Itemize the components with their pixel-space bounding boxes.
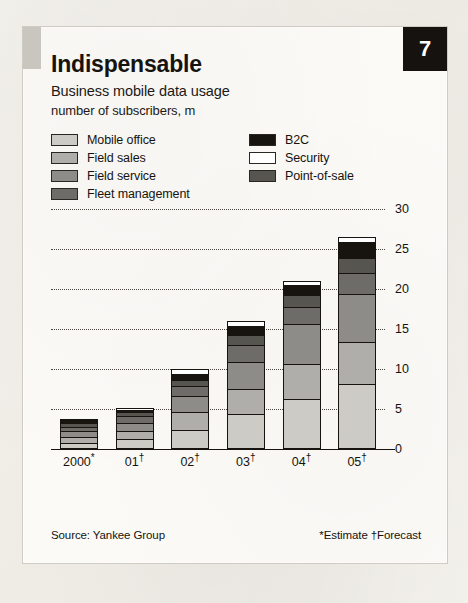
legend-swatch-b2c	[249, 134, 276, 146]
y-axis-tick-label: 30	[395, 202, 409, 216]
bar-segment-mobile-office	[60, 443, 98, 449]
legend-item-point-of-sale: Point-of-sale	[249, 167, 354, 185]
legend-item-fleet-management: Fleet management	[51, 185, 190, 203]
y-axis-tick-label: 20	[395, 282, 409, 296]
legend-item-b2c: B2C	[249, 131, 354, 149]
source-note: Source: Yankee Group	[51, 529, 165, 541]
bar-segment-field-sales	[283, 364, 321, 399]
legend-column-left: Mobile office Field sales Field service …	[51, 131, 190, 203]
legend-swatch-field-sales	[51, 152, 78, 164]
legend-item-field-service: Field service	[51, 167, 190, 185]
legend-swatch-fleet-management	[51, 188, 78, 200]
bar-01	[116, 408, 154, 449]
y-axis-tick-label: 15	[395, 322, 409, 336]
bar-02	[171, 369, 209, 449]
bar-segment-mobile-office	[227, 414, 265, 449]
bar-segment-field-service	[227, 362, 265, 389]
bar-segment-point-of-sale	[283, 295, 321, 306]
x-axis-tick-label: 02†	[159, 455, 221, 469]
gridline-10	[51, 369, 385, 370]
footnote-legend: *Estimate †Forecast	[319, 529, 421, 541]
page-number-badge: 7	[403, 27, 447, 71]
x-axis-tick-label: 01†	[104, 455, 166, 469]
bar-segment-b2c	[283, 285, 321, 295]
legend-label-point-of-sale: Point-of-sale	[285, 169, 354, 183]
bar-03	[227, 321, 265, 449]
bar-segment-field-service	[116, 423, 154, 431]
bar-segment-field-sales	[227, 389, 265, 414]
legend-swatch-field-service	[51, 170, 78, 182]
axis-baseline	[51, 449, 395, 450]
legend-item-security: Security	[249, 149, 354, 167]
chart-legend: Mobile office Field sales Field service …	[51, 131, 423, 203]
legend-label-field-sales: Field sales	[87, 151, 146, 165]
bar-segment-field-sales	[338, 342, 376, 384]
bar-segment-mobile-office	[283, 399, 321, 449]
legend-item-field-sales: Field sales	[51, 149, 190, 167]
bar-segment-fleet-management	[338, 273, 376, 294]
x-axis-tick-label: 2000*	[48, 455, 110, 469]
gridline-5	[51, 409, 385, 410]
legend-label-fleet-management: Fleet management	[87, 187, 190, 201]
bar-segment-fleet-management	[227, 345, 265, 362]
x-axis-tick-label: 04†	[271, 455, 333, 469]
bar-segment-b2c	[227, 326, 265, 336]
bar-segment-field-service	[171, 396, 209, 412]
bar-segment-field-sales	[171, 412, 209, 430]
y-axis-tick-label: 25	[395, 242, 409, 256]
gridline-25	[51, 249, 385, 250]
x-axis-tick-label: 03†	[215, 455, 277, 469]
bar-2000	[60, 419, 98, 449]
y-axis-tick-label: 5	[395, 402, 402, 416]
y-axis-tick-label: 0	[395, 442, 402, 456]
legend-column-right: B2C Security Point-of-sale	[249, 131, 354, 185]
chart-plot: 051015202530 2000*01†02†03†04†05†	[51, 209, 423, 471]
legend-label-mobile-office: Mobile office	[87, 133, 156, 147]
legend-item-mobile-office: Mobile office	[51, 131, 190, 149]
legend-label-field-service: Field service	[87, 169, 156, 183]
bar-segment-mobile-office	[338, 384, 376, 449]
legend-swatch-mobile-office	[51, 134, 78, 146]
gridline-20	[51, 289, 385, 290]
chart-units-label: number of subscribers, m	[51, 103, 195, 118]
y-axis-tick-label: 10	[395, 362, 409, 376]
gridline-30	[51, 209, 385, 210]
plot-area: 051015202530	[51, 209, 385, 449]
legend-label-b2c: B2C	[285, 133, 309, 147]
chart-title: Indispensable	[51, 51, 202, 78]
legend-swatch-security	[249, 152, 276, 164]
legend-label-security: Security	[285, 151, 329, 165]
page-number-text: 7	[419, 38, 431, 60]
chart-subtitle: Business mobile data usage	[51, 83, 230, 99]
x-axis-tick-label: 05†	[326, 455, 388, 469]
bar-segment-fleet-management	[283, 307, 321, 325]
gridline-15	[51, 329, 385, 330]
legend-swatch-point-of-sale	[249, 170, 276, 182]
bar-segment-field-service	[338, 294, 376, 342]
accent-block	[23, 27, 41, 69]
bar-segment-point-of-sale	[227, 335, 265, 345]
bar-05	[338, 237, 376, 449]
bar-segment-mobile-office	[116, 439, 154, 449]
bar-segment-field-sales	[116, 431, 154, 440]
bar-segment-field-service	[283, 324, 321, 364]
bar-segment-mobile-office	[171, 430, 209, 449]
bar-04	[283, 281, 321, 449]
bar-segment-point-of-sale	[338, 258, 376, 273]
chart-card: 7 Indispensable Business mobile data usa…	[22, 26, 448, 564]
chart-page: 7 Indispensable Business mobile data usa…	[0, 0, 468, 603]
bar-segment-fleet-management	[171, 386, 209, 396]
bar-segment-b2c	[338, 242, 376, 258]
